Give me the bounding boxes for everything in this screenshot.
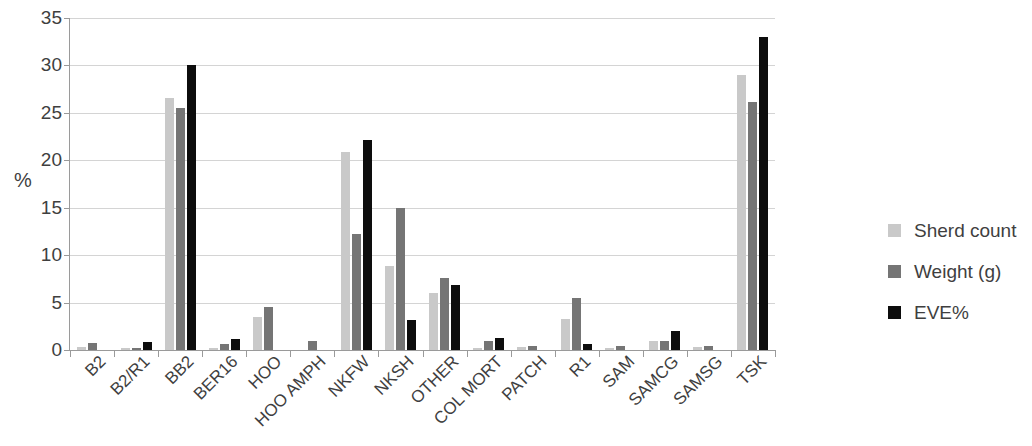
bar — [495, 338, 504, 350]
bar — [572, 298, 581, 350]
y-tick-label: 10 — [6, 244, 62, 266]
legend-item-label: Sherd count — [914, 220, 1016, 242]
bar — [253, 317, 262, 350]
bar-group — [246, 18, 290, 350]
bar — [121, 348, 130, 350]
bar-group — [687, 18, 731, 350]
x-tick-label: TSK — [734, 352, 772, 390]
bar-group — [423, 18, 467, 350]
legend-item-label: Weight (g) — [914, 261, 1001, 283]
y-tick-label: 30 — [6, 54, 62, 76]
legend-item[interactable]: Sherd count — [888, 210, 1032, 251]
bar — [473, 348, 482, 350]
bar — [187, 65, 196, 350]
bar-group — [114, 18, 158, 350]
bar — [143, 342, 152, 350]
legend-swatch-icon — [888, 306, 901, 319]
bar — [308, 341, 317, 350]
legend-item[interactable]: EVE% — [888, 292, 1032, 333]
y-tick-label: 25 — [6, 102, 62, 124]
bar — [231, 339, 240, 350]
legend-swatch-icon — [888, 265, 901, 278]
bar — [649, 341, 658, 350]
bar — [605, 348, 614, 350]
bar-group — [158, 18, 202, 350]
bar — [737, 75, 746, 350]
bar-group — [731, 18, 775, 350]
bar — [363, 140, 372, 350]
x-tick-label: B2 — [81, 352, 110, 381]
legend-item[interactable]: Weight (g) — [888, 251, 1032, 292]
y-axis-tick-labels: 05101520253035 — [0, 18, 62, 350]
chart-legend: Sherd countWeight (g)EVE% — [888, 210, 1032, 333]
bar — [748, 102, 757, 350]
bar-chart: % 05101520253035 B2B2/R1BB2BER16HOOHOO A… — [0, 0, 1032, 446]
bar — [451, 285, 460, 350]
bar — [429, 293, 438, 350]
y-tick-label: 20 — [6, 149, 62, 171]
bar-group — [290, 18, 334, 350]
plot-area — [70, 18, 775, 350]
legend-swatch-icon — [888, 224, 901, 237]
bar — [385, 266, 394, 350]
bar-group — [70, 18, 114, 350]
bar — [88, 343, 97, 350]
bar — [77, 347, 86, 350]
y-tick-label: 15 — [6, 197, 62, 219]
bar — [440, 278, 449, 350]
x-tick-label: PATCH — [498, 352, 551, 405]
bar-group — [555, 18, 599, 350]
bar-group — [202, 18, 246, 350]
bar — [132, 348, 141, 350]
y-tick-label: 35 — [6, 7, 62, 29]
y-tick-label: 0 — [6, 339, 62, 361]
x-tick-label: R1 — [565, 352, 595, 382]
bar — [660, 341, 669, 350]
bar-group — [467, 18, 511, 350]
x-tick-label: NKFW — [325, 352, 375, 402]
y-tick-label: 5 — [6, 292, 62, 314]
bar — [407, 320, 416, 350]
x-tick-mark — [775, 350, 776, 357]
bar — [583, 344, 592, 350]
bar — [484, 341, 493, 350]
bar — [561, 319, 570, 350]
bar — [264, 307, 273, 350]
bar-group — [643, 18, 687, 350]
bar-group — [334, 18, 378, 350]
bar — [517, 347, 526, 350]
x-tick-label: B2/R1 — [107, 352, 155, 400]
bar — [759, 37, 768, 350]
bar-group — [599, 18, 643, 350]
bar — [165, 98, 174, 350]
bar — [528, 346, 537, 350]
bar — [220, 344, 229, 350]
x-axis-tick-labels: B2B2/R1BB2BER16HOOHOO AMPHNKFWNKSHOTHERC… — [70, 352, 775, 446]
bar — [352, 234, 361, 350]
x-tick-label: BB2 — [161, 352, 198, 389]
bar — [704, 346, 713, 350]
bar — [176, 108, 185, 350]
bar — [396, 208, 405, 350]
x-tick-label: BER16 — [190, 352, 242, 404]
bar — [341, 152, 350, 350]
bar — [693, 347, 702, 350]
bar-group — [378, 18, 422, 350]
bar — [209, 348, 218, 350]
legend-item-label: EVE% — [914, 302, 969, 324]
bar — [616, 346, 625, 350]
bar-group — [511, 18, 555, 350]
bar — [671, 331, 680, 350]
